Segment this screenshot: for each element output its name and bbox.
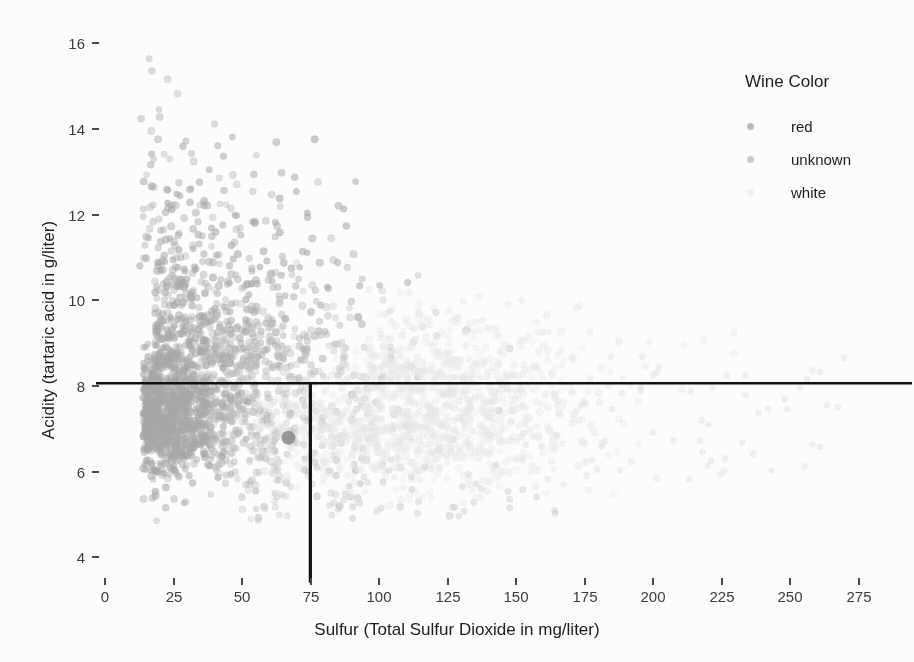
x-tick-label-225: 225 [709, 588, 734, 605]
y-tick-label-4: 4 [35, 549, 85, 566]
legend-swatch-white [735, 189, 765, 196]
y-tick-mark-4 [92, 556, 99, 558]
legend-item-red[interactable]: red [735, 110, 905, 143]
legend: Wine Color red unknown white [735, 72, 905, 209]
legend-label-unknown: unknown [765, 151, 851, 168]
y-tick-label-16: 16 [35, 35, 85, 52]
x-tick-label-25: 25 [166, 588, 183, 605]
y-tick-mark-12 [92, 214, 99, 216]
legend-swatch-unknown [735, 156, 765, 163]
circle-marker-icon [747, 189, 754, 196]
x-tick-mark-125 [447, 578, 449, 585]
x-tick-mark-25 [173, 578, 175, 585]
x-tick-label-175: 175 [572, 588, 597, 605]
x-axis-title: Sulfur (Total Sulfur Dioxide in mg/liter… [0, 620, 914, 640]
x-tick-mark-200 [652, 578, 654, 585]
x-tick-label-250: 250 [777, 588, 802, 605]
legend-label-red: red [765, 118, 813, 135]
x-tick-label-50: 50 [234, 588, 251, 605]
x-tick-mark-275 [858, 578, 860, 585]
legend-item-unknown[interactable]: unknown [735, 143, 905, 176]
chart-page: 16 14 12 10 8 6 4 0 25 50 75 100 125 150… [0, 0, 914, 662]
legend-swatch-red [735, 123, 765, 130]
circle-marker-icon [747, 156, 754, 163]
x-tick-mark-75 [310, 578, 312, 585]
x-tick-label-150: 150 [503, 588, 528, 605]
x-tick-mark-175 [584, 578, 586, 585]
y-tick-mark-10 [92, 299, 99, 301]
y-axis-title: Acidity (tartaric acid in g/liter) [39, 120, 59, 540]
circle-marker-icon [747, 123, 754, 130]
plot-panel: 16 14 12 10 8 6 4 0 25 50 75 100 125 150… [0, 0, 914, 662]
legend-title: Wine Color [735, 72, 905, 92]
x-tick-mark-50 [241, 578, 243, 585]
x-tick-label-275: 275 [846, 588, 871, 605]
y-tick-mark-6 [92, 471, 99, 473]
x-tick-mark-225 [721, 578, 723, 585]
x-tick-label-125: 125 [435, 588, 460, 605]
legend-item-white[interactable]: white [735, 176, 905, 209]
y-tick-mark-14 [92, 128, 99, 130]
legend-label-white: white [765, 184, 826, 201]
x-tick-mark-0 [104, 578, 106, 585]
x-tick-mark-150 [515, 578, 517, 585]
x-tick-label-200: 200 [640, 588, 665, 605]
x-tick-mark-100 [378, 578, 380, 585]
x-tick-mark-250 [789, 578, 791, 585]
y-tick-mark-16 [92, 42, 99, 44]
x-tick-label-100: 100 [366, 588, 391, 605]
x-tick-label-0: 0 [101, 588, 109, 605]
x-tick-label-75: 75 [303, 588, 320, 605]
y-tick-mark-8 [92, 385, 99, 387]
